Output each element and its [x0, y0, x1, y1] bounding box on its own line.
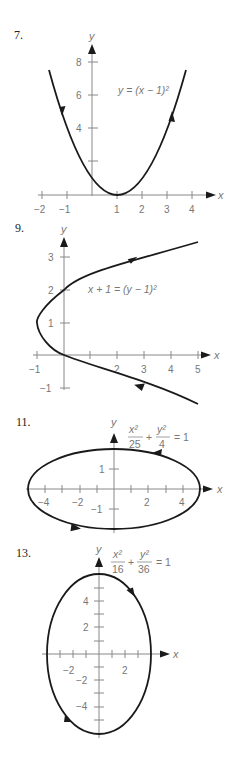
x-axis-arrow-icon: [160, 651, 170, 658]
svg-text:+: +: [128, 556, 134, 568]
figure-11: 11. y x −4 −2 2 4 1 −1 x² 25 + y²: [16, 415, 223, 533]
x-tick-label: −2: [34, 204, 46, 215]
y-tick-label: 4: [76, 123, 82, 134]
y-tick-label: 2: [48, 285, 54, 296]
x-tick-label: −2: [63, 665, 75, 676]
direction-arrow-icon: [64, 715, 71, 722]
x-axis-label: x: [172, 648, 179, 660]
svg-text:4: 4: [159, 438, 165, 450]
y-tick-label: 2: [83, 622, 89, 633]
y-tick-label: 8: [76, 57, 82, 68]
svg-text:16: 16: [112, 563, 124, 575]
x-tick-label: −4: [38, 497, 50, 508]
y-axis-label: y: [88, 30, 96, 42]
svg-text:y²: y²: [156, 423, 166, 435]
x-tick-label: 2: [144, 497, 150, 508]
svg-text:= 1: = 1: [174, 431, 189, 443]
y-tick-label: 1: [99, 464, 105, 475]
y-axis-arrow-icon: [88, 44, 96, 54]
figure-9: 9. y x −1 2 3 4 5 3 2 1 −1 x + 1 = (y − …: [15, 221, 220, 404]
y-axis-label: y: [60, 223, 68, 235]
x-axis-arrow-icon: [206, 192, 216, 199]
svg-text:+: +: [146, 431, 152, 443]
x-tick-label: 4: [189, 204, 195, 215]
x-tick-label: 4: [179, 497, 185, 508]
y-axis-label: y: [110, 416, 118, 428]
svg-text:36: 36: [138, 563, 150, 575]
svg-text:y²: y²: [139, 548, 149, 560]
y-axis-arrow-icon: [95, 557, 103, 567]
x-tick-label: 3: [164, 204, 170, 215]
figure-number: 7.: [14, 28, 23, 42]
equation-label: x² 16 + y² 36 = 1: [111, 548, 171, 575]
figure-number: 9.: [15, 221, 24, 235]
y-tick-label: −2: [76, 675, 88, 686]
direction-arrow-icon: [169, 111, 176, 122]
x-axis-arrow-icon: [203, 486, 213, 493]
y-tick-label: −1: [91, 504, 103, 515]
x-tick-label: 3: [141, 364, 147, 375]
svg-text:25: 25: [129, 438, 141, 450]
x-tick-label: 2: [139, 204, 145, 215]
direction-arrow-icon: [128, 257, 139, 264]
svg-text:x²: x²: [128, 423, 138, 435]
svg-text:x²: x²: [112, 548, 122, 560]
svg-text:= 1: = 1: [156, 556, 171, 568]
y-tick-label: 4: [83, 596, 89, 607]
figure-page: 7. y x −2 −1 1 2 3 4 8 6 4 y = (x − 1: [0, 0, 233, 769]
y-tick-label: 1: [48, 318, 54, 329]
y-tick-label: 6: [76, 90, 82, 101]
x-tick-label: 1: [114, 204, 120, 215]
y-axis-label: y: [95, 543, 103, 555]
x-axis-label: x: [213, 349, 220, 361]
x-tick-label: 2: [122, 665, 128, 676]
figure-number: 13.: [16, 546, 31, 560]
y-tick-label: −1: [40, 383, 52, 394]
x-tick-label: −1: [59, 204, 71, 215]
y-tick-label: 3: [48, 252, 54, 263]
figure-number: 11.: [16, 415, 31, 429]
equation-label: y = (x − 1)²: [117, 84, 169, 96]
y-axis-arrow-icon: [110, 433, 118, 443]
x-tick-label: −1: [29, 364, 41, 375]
y-axis-arrow-icon: [60, 237, 68, 247]
x-tick-label: 4: [168, 364, 174, 375]
x-axis-label: x: [216, 483, 223, 495]
y-tick-label: −4: [76, 701, 88, 712]
x-axis-arrow-icon: [201, 352, 211, 359]
x-axis-label: x: [217, 189, 224, 201]
x-tick-label: −2: [72, 497, 84, 508]
x-tick-label: 5: [195, 364, 201, 375]
figure-13: 13. y x −2 2 4 2 −2 −4 x² 16 +: [16, 543, 179, 738]
figure-7: 7. y x −2 −1 1 2 3 4 8 6 4 y = (x − 1: [14, 28, 224, 215]
equation-label: x + 1 = (y − 1)²: [87, 283, 157, 295]
equation-label: x² 25 + y² 4 = 1: [128, 423, 189, 450]
